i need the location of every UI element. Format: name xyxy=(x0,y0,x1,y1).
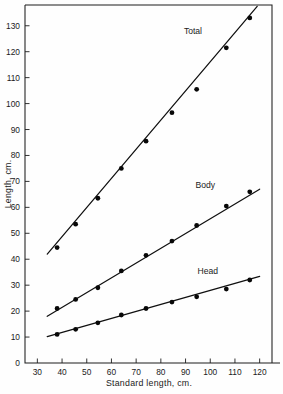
x-tick-label: 40 xyxy=(57,367,67,377)
y-tick-label: 10 xyxy=(11,332,21,342)
data-point xyxy=(95,196,100,201)
x-tick-label: 50 xyxy=(82,367,92,377)
data-point xyxy=(247,189,252,194)
data-point xyxy=(73,327,78,332)
scatter-plot-svg: 30405060708090100110120 0102030405060708… xyxy=(0,0,283,394)
x-tick-label: 120 xyxy=(253,367,267,377)
data-point xyxy=(144,253,149,258)
x-axis-ticks: 30405060708090100110120 xyxy=(33,359,267,378)
series-label-body: Body xyxy=(196,180,216,190)
series-label-head: Head xyxy=(198,266,219,276)
data-point xyxy=(224,204,229,209)
x-tick-label: 100 xyxy=(203,367,217,377)
series-label-total: Total xyxy=(184,26,202,36)
data-point xyxy=(247,16,252,21)
y-tick-label: 80 xyxy=(11,150,21,160)
data-point xyxy=(224,287,229,292)
x-tick-label: 30 xyxy=(33,367,43,377)
data-point xyxy=(119,313,124,318)
x-tick-label: 110 xyxy=(228,367,242,377)
y-tick-label: 130 xyxy=(6,21,20,31)
data-point xyxy=(95,285,100,290)
data-point xyxy=(194,294,199,299)
data-point xyxy=(170,300,175,305)
series-head xyxy=(47,276,259,337)
series-labels-group: TotalBodyHead xyxy=(184,26,218,276)
x-axis-title: Standard length, cm. xyxy=(106,378,192,388)
data-point xyxy=(73,222,78,227)
y-tick-label: 20 xyxy=(11,306,21,316)
y-tick-label: 100 xyxy=(6,99,20,109)
data-point xyxy=(119,166,124,171)
data-point xyxy=(55,245,60,250)
series-body xyxy=(47,189,259,316)
y-tick-label: 40 xyxy=(11,254,21,264)
chart-figure: 30405060708090100110120 0102030405060708… xyxy=(0,0,283,394)
x-tick-label: 60 xyxy=(107,367,117,377)
data-point xyxy=(194,87,199,92)
data-point xyxy=(95,320,100,325)
x-tick-label: 90 xyxy=(181,367,191,377)
y-tick-label: 30 xyxy=(11,280,21,290)
data-point xyxy=(119,269,124,274)
data-point xyxy=(144,139,149,144)
y-tick-label: 90 xyxy=(11,125,21,135)
data-point xyxy=(55,332,60,337)
data-point xyxy=(247,278,252,283)
plot-frame xyxy=(25,5,280,363)
data-point xyxy=(144,306,149,311)
data-point xyxy=(194,223,199,228)
x-tick-label: 70 xyxy=(131,367,141,377)
y-tick-label: 50 xyxy=(11,228,21,238)
data-point xyxy=(170,110,175,115)
y-tick-label: 110 xyxy=(7,73,21,83)
x-tick-label: 80 xyxy=(156,367,166,377)
series-total xyxy=(47,6,257,254)
y-tick-label: 0 xyxy=(15,358,20,368)
data-point xyxy=(224,45,229,50)
data-series-group xyxy=(47,6,259,337)
y-tick-label: 120 xyxy=(6,47,20,57)
data-point xyxy=(170,239,175,244)
data-point xyxy=(55,306,60,311)
data-point xyxy=(73,297,78,302)
y-axis-title: Length, cm. xyxy=(3,160,13,209)
